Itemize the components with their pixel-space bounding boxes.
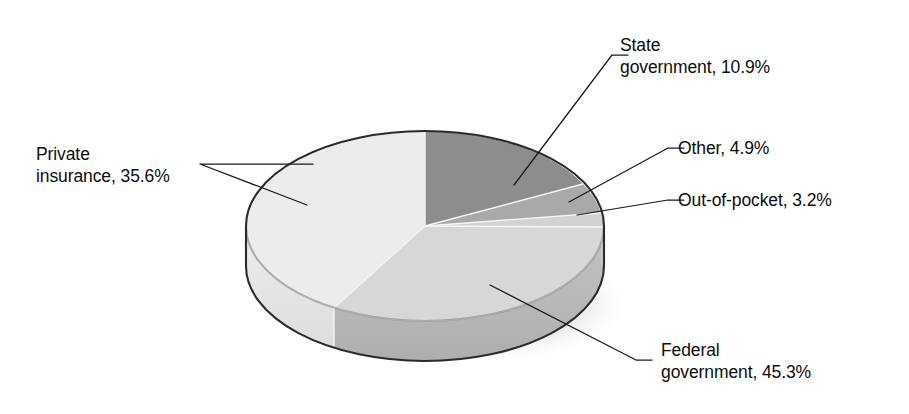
label-federal-government-line1: Federal xyxy=(661,340,720,360)
label-out-of-pocket: Out-of-pocket, 3.2% xyxy=(678,190,832,210)
pie-chart-figure: Private insurance, 35.6% State governmen… xyxy=(0,0,909,414)
label-federal-government: Federal government, 45.3% xyxy=(661,340,811,382)
label-federal-government-line2: government, 45.3% xyxy=(661,362,811,382)
label-state-government: State government, 10.9% xyxy=(620,35,770,77)
pie-chart-svg: Private insurance, 35.6% State governmen… xyxy=(0,0,909,414)
label-state-government-line1: State xyxy=(620,35,660,55)
label-private-insurance: Private insurance, 35.6% xyxy=(36,144,170,186)
label-other: Other, 4.9% xyxy=(678,138,769,158)
label-private-insurance-line2: insurance, 35.6% xyxy=(36,166,170,186)
label-state-government-line2: government, 10.9% xyxy=(620,57,770,77)
label-private-insurance-line1: Private xyxy=(36,144,90,164)
